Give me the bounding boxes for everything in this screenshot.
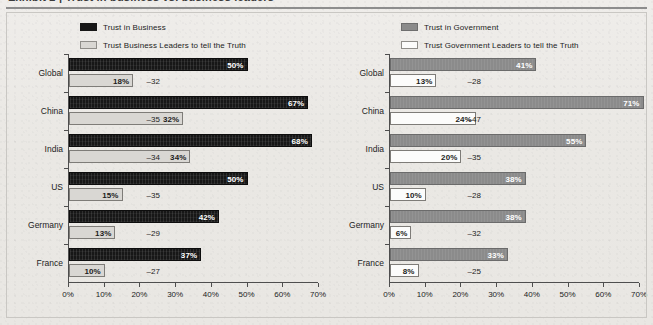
figure-title-text: Exhibit 2 | Trust in business vs. busine…: [8, 0, 274, 3]
figure-frame: [6, 12, 647, 318]
top-rule-divider: [6, 7, 647, 9]
